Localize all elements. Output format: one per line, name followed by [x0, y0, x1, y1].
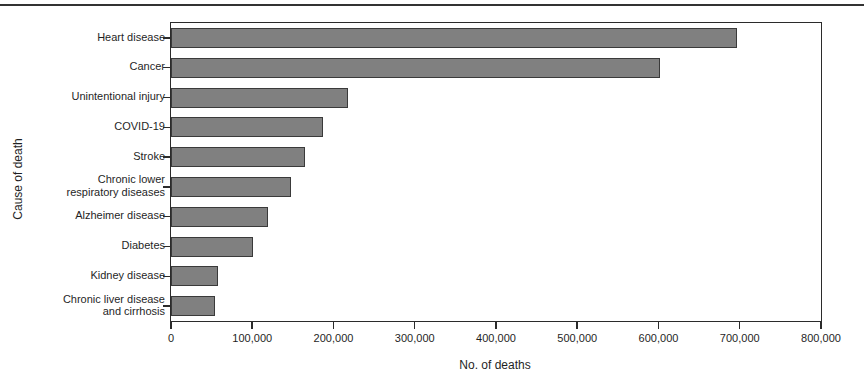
- y-axis-tick: [163, 276, 170, 278]
- y-axis-tick: [163, 305, 170, 307]
- bar: [171, 177, 291, 197]
- bar: [171, 207, 268, 227]
- x-axis-tick: [170, 322, 172, 329]
- y-axis-label: Unintentional injury: [0, 90, 165, 103]
- y-axis-label: COVID-19: [0, 120, 165, 133]
- x-axis-tick: [333, 322, 335, 329]
- x-axis-tick-label: 200,000: [314, 332, 354, 345]
- y-axis-label: Heart disease: [0, 31, 165, 44]
- x-axis-tick: [414, 322, 416, 329]
- x-axis-tick-label: 100,000: [232, 332, 272, 345]
- y-axis-label: Kidney disease: [0, 269, 165, 282]
- y-axis-title: Cause of death: [11, 138, 25, 219]
- bar: [171, 28, 737, 48]
- x-axis-tick: [658, 322, 660, 329]
- bar: [171, 296, 215, 316]
- y-axis-tick: [163, 67, 170, 69]
- x-axis-tick: [576, 322, 578, 329]
- x-axis-tick: [820, 322, 822, 329]
- x-axis-tick-label: 800,000: [801, 332, 841, 345]
- x-axis-tick: [251, 322, 253, 329]
- y-axis-label: Chronic liver disease and cirrhosis: [0, 293, 165, 318]
- x-axis-tick-label: 0: [168, 332, 174, 345]
- x-axis-tick-label: 600,000: [639, 332, 679, 345]
- bar: [171, 58, 660, 78]
- bar: [171, 117, 323, 137]
- bar: [171, 266, 218, 286]
- y-axis-label: Cancer: [0, 60, 165, 73]
- x-axis-title: No. of deaths: [459, 358, 530, 372]
- y-axis-tick: [163, 156, 170, 158]
- bar: [171, 88, 348, 108]
- x-axis-tick: [739, 322, 741, 329]
- bars-layer: [171, 23, 821, 321]
- bar: [171, 237, 253, 257]
- figure-top-rule: [0, 4, 864, 6]
- x-axis-tick-label: 400,000: [476, 332, 516, 345]
- bar: [171, 147, 305, 167]
- y-axis-tick: [163, 246, 170, 248]
- y-axis-label: Diabetes: [0, 239, 165, 252]
- x-axis-tick-label: 700,000: [720, 332, 760, 345]
- y-axis-tick: [163, 127, 170, 129]
- y-axis-tick: [163, 97, 170, 99]
- x-axis-tick-label: 300,000: [395, 332, 435, 345]
- chart-figure: Heart diseaseCancerUnintentional injuryC…: [0, 0, 864, 389]
- x-axis-tick: [495, 322, 497, 329]
- x-axis-tick-label: 500,000: [557, 332, 597, 345]
- y-axis-tick: [163, 186, 170, 188]
- y-axis-tick: [163, 37, 170, 39]
- y-axis-tick: [163, 216, 170, 218]
